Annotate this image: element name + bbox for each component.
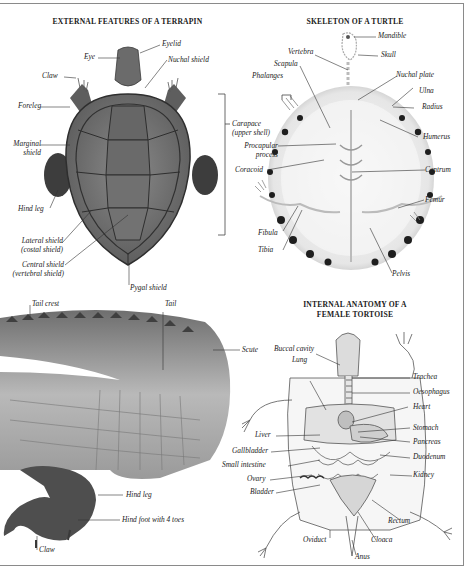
label-central-shield-line2: (vertebral shield) [12,269,64,278]
label-small-intestine: Small intestine [222,461,266,470]
label-central-shield: Central shield (vertebral shield) [2,261,64,278]
label-tibia: Tibia [258,246,273,255]
label-claw-croc: Claw [39,546,55,555]
label-anus: Anus [355,553,370,562]
label-liver: Liver [255,431,271,440]
label-heart: Heart [413,403,430,412]
label-oesophagus: Oesophagus [413,388,450,397]
label-marginal-shield-line2: shield [23,148,41,157]
terrapin-title: EXTERNAL FEATURES OF A TERRAPIN [40,17,215,26]
label-skull: Skull [381,51,396,60]
label-humerus: Humerus [423,133,450,142]
label-rectum: Rectum [388,517,410,526]
label-pelvis: Pelvis [392,270,410,279]
label-phalanges: Phalanges [252,72,283,81]
label-trachea: Trachea [413,373,437,382]
label-mandible: Mandible [378,32,406,41]
label-pygal-shield: Pygal shield [130,284,167,293]
label-scapula: Scapula [274,60,298,69]
label-lung: Lung [292,356,307,365]
carapace-bracket [218,94,225,235]
label-lateral-shield: Lateral shield (costal shield) [5,237,63,254]
label-hind-leg-croc: Hind leg [126,491,152,500]
label-femur: Femur [425,196,445,205]
label-stomach: Stomach [413,424,438,433]
label-hind-leg-terrapin: Hind leg [18,205,44,214]
label-scute: Scute [242,346,258,355]
label-cloaca: Cloaca [371,536,392,545]
label-procapular-process: Procapular process [230,142,278,159]
terrapin-illustration [44,47,218,265]
label-coracoid: Coracoid [235,166,263,175]
label-fibula: Fibula [258,229,278,238]
label-vertebra: Vertebra [288,48,313,57]
label-ovary: Ovary [247,475,265,484]
label-carapace: Carapace (upper shell) [232,120,270,137]
label-gallbladder: Gallbladder [232,447,268,456]
tortoise-title-line2: FEMALE TORTOISE [290,310,420,319]
tortoise-title-line1: INTERNAL ANATOMY OF A [290,300,420,309]
label-eye: Eye [84,53,95,62]
label-carapace-line2: (upper shell) [232,128,270,137]
label-nuchal-shield: Nuchal shield [168,56,209,65]
label-claw-terrapin: Claw [42,72,58,81]
label-foreleg: Foreleg [18,102,41,111]
label-hind-foot: Hind foot with 4 toes [122,516,184,525]
skeleton-title: SKELETON OF A TURTLE [290,17,420,26]
label-radius: Radius [422,103,443,112]
illustrations [0,0,471,578]
label-nuchal-plate: Nuchal plate [396,71,434,80]
label-pancreas: Pancreas [413,438,441,447]
label-tail-crest: Tail crest [32,300,59,309]
label-bladder: Bladder [250,488,274,497]
label-procapular-line2: process [256,150,278,159]
label-marginal-shield: Marginal shield [5,140,41,157]
label-lateral-shield-line2: (costal shield) [21,245,63,254]
label-eyelid: Eyelid [162,40,181,49]
label-centrum: Centrum [425,166,451,175]
label-buccal-cavity: Buccal cavity [274,345,314,354]
label-kidney: Kidney [413,471,434,480]
crocodile-illustration [0,310,230,548]
label-tail: Tail [165,300,176,309]
label-oviduct: Oviduct [303,536,326,545]
label-ulna: Ulna [419,87,434,96]
label-duodenum: Duodenum [413,453,445,462]
